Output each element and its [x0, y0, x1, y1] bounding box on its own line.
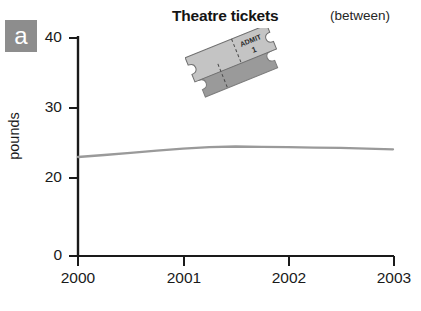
x-axis-ticks [78, 256, 394, 266]
y-tick-label-0: 0 [22, 247, 62, 263]
series-line-theatre-tickets [78, 147, 393, 158]
x-tick-label-2002: 2002 [259, 270, 319, 286]
y-axis-ticks [69, 38, 78, 256]
x-tick-label-2001: 2001 [154, 270, 214, 286]
y-tick-labels: 40 30 20 0 [18, 0, 62, 311]
y-tick-label-40: 40 [22, 29, 62, 45]
figure-panel: a Theatre tickets (between) pounds ADMIT… [0, 0, 421, 311]
y-tick-label-20: 20 [22, 169, 62, 185]
chart-plot-area [0, 0, 421, 311]
x-tick-label-2003: 2003 [364, 270, 421, 286]
x-tick-label-2000: 2000 [48, 270, 108, 286]
y-tick-label-30: 30 [22, 99, 62, 115]
